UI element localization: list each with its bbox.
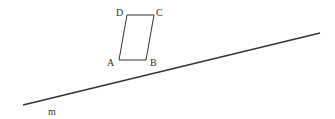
line-label-m: m — [48, 106, 56, 117]
vertex-label-c: C — [156, 7, 163, 18]
line-m — [23, 33, 320, 105]
parallelogram-abcd — [119, 15, 154, 60]
vertex-label-d: D — [116, 7, 123, 18]
geometry-figure: A B C D m — [0, 0, 335, 119]
vertex-label-b: B — [150, 57, 157, 68]
vertex-label-a: A — [107, 57, 115, 68]
